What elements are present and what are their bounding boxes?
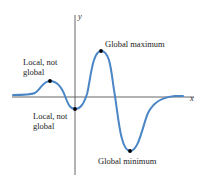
local-min-label: Local, not global: [33, 111, 67, 131]
global-min-label-line1: Global minimum: [98, 156, 156, 166]
global-max-label: Global maximum: [105, 39, 165, 49]
local-max-point: [48, 79, 52, 83]
graph-svg: [0, 0, 202, 182]
y-axis-label: y: [78, 11, 82, 21]
global-max-label-line1: Global maximum: [105, 39, 165, 49]
local-min-label-line1: Local, not: [33, 111, 67, 121]
extrema-diagram: y x Local, not global Global maximum Loc…: [0, 0, 202, 182]
global-min-label: Global minimum: [98, 156, 156, 166]
local-max-label-line1: Local, not: [23, 57, 57, 67]
local-max-label-line2: global: [23, 67, 57, 77]
local-min-point: [73, 107, 77, 111]
global-min-point: [128, 149, 132, 153]
local-min-label-line2: global: [33, 121, 67, 131]
x-axis-label: x: [190, 93, 194, 103]
global-max-point: [99, 49, 103, 53]
local-max-label: Local, not global: [23, 57, 57, 77]
